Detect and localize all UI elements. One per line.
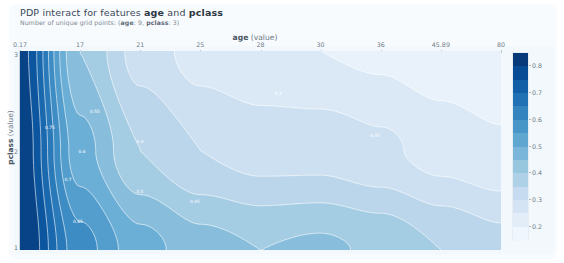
colorbar-segment xyxy=(513,200,528,214)
colorbar-tick-mark xyxy=(529,146,531,147)
colorbar-segment xyxy=(513,120,528,134)
colorbar-tick-mark xyxy=(529,92,531,93)
colorbar-segment xyxy=(513,106,528,120)
colorbar-segment xyxy=(513,147,528,161)
y-tick-label: 1 xyxy=(14,244,18,251)
contour-label: 0.5 xyxy=(137,189,144,194)
colorbar-segment xyxy=(513,227,528,241)
colorbar-tick-label: 0.6 xyxy=(532,115,542,122)
subtitle-feature-2: pclass xyxy=(146,19,168,26)
subtitle-feature-1: age xyxy=(121,19,134,26)
x-tick-label: 0.17 xyxy=(13,41,27,48)
y-tick-label: 2 xyxy=(14,147,18,154)
contour-label: 0.35 xyxy=(370,133,380,138)
colorbar-tick-mark xyxy=(529,172,531,173)
x-tick-label: 80 xyxy=(497,41,505,48)
contour-label: 0.45 xyxy=(190,199,200,204)
page-title: PDP interact for features age and pclass xyxy=(20,7,223,18)
x-tick-label: 30 xyxy=(317,41,325,48)
colorbar-tick-label: 0.7 xyxy=(532,89,542,96)
colorbar-segment xyxy=(513,160,528,174)
x-tick-label: 17 xyxy=(76,41,84,48)
colorbar-segment xyxy=(513,173,528,187)
x-axis-ticks: 0.1717212528303645.8980 xyxy=(20,41,501,51)
colorbar-segment xyxy=(513,213,528,227)
contour-label: 0.7 xyxy=(65,177,72,182)
colorbar-segment xyxy=(513,133,528,147)
colorbar-tick-label: 0.8 xyxy=(532,62,542,69)
title-feature-2: pclass xyxy=(189,7,223,18)
title-prefix: PDP interact for features xyxy=(20,7,144,18)
colorbar-segment xyxy=(513,66,528,80)
y-axis-ticks: 123 xyxy=(8,51,19,250)
contour-label: 0.4 xyxy=(137,139,144,144)
contour-label: 0.65 xyxy=(73,219,83,224)
subtitle-value-2: : 3) xyxy=(168,19,179,26)
subtitle-value-1: : 9, xyxy=(134,19,146,26)
colorbar-tick-label: 0.3 xyxy=(532,195,542,202)
x-tick-mark xyxy=(501,50,502,53)
colorbar-gradient xyxy=(512,52,529,241)
contour-label: 0.75 xyxy=(45,125,55,130)
colorbar-segment xyxy=(513,80,528,94)
contour-svg: 0.750.70.650.60.550.50.450.40.350.3 xyxy=(20,51,501,250)
colorbar-tick-mark xyxy=(529,199,531,200)
colorbar-tick-mark xyxy=(529,226,531,227)
colorbar-segment xyxy=(513,187,528,201)
colorbar-segment xyxy=(513,93,528,107)
x-tick-label: 36 xyxy=(377,41,385,48)
colorbar-tick-mark xyxy=(529,65,531,66)
colorbar-tick-label: 0.2 xyxy=(532,222,542,229)
x-tick-label: 25 xyxy=(196,41,204,48)
page-subtitle: Number of unique grid points: (age: 9, p… xyxy=(20,19,179,26)
contour-label: 0.3 xyxy=(275,91,282,96)
x-tick-label: 45.89 xyxy=(432,41,450,48)
title-join: and xyxy=(164,7,189,18)
x-tick-label: 28 xyxy=(256,41,264,48)
colorbar-tick-label: 0.5 xyxy=(532,142,542,149)
subtitle-prefix: Number of unique grid points: ( xyxy=(20,19,121,26)
pdp-interact-chart: PDP interact for features age and pclass… xyxy=(0,0,564,263)
colorbar-tick-mark xyxy=(529,119,531,120)
colorbar: 0.20.30.40.50.60.70.8 xyxy=(512,52,558,239)
contour-plot-area: 0.750.70.650.60.550.50.450.40.350.3 xyxy=(20,51,501,250)
contour-label: 0.6 xyxy=(79,149,86,154)
contour-label: 0.55 xyxy=(90,109,100,114)
y-tick-label: 3 xyxy=(14,51,18,58)
x-tick-label: 21 xyxy=(136,41,144,48)
colorbar-segment xyxy=(513,53,528,67)
colorbar-ticks: 0.20.30.40.50.60.70.8 xyxy=(529,52,557,239)
colorbar-tick-label: 0.4 xyxy=(532,169,542,176)
title-feature-1: age xyxy=(144,7,164,18)
